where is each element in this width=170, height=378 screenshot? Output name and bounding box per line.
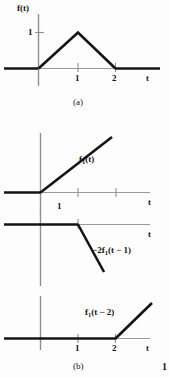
panel-b1-x-axis-label: t <box>148 198 151 207</box>
panel-b3-curve-ramp <box>116 303 153 339</box>
panel-b3-xtick-label-1: 1 <box>75 344 80 353</box>
panel-a-x-axis-label: t <box>146 74 149 83</box>
page-number: 1 <box>162 362 167 372</box>
figure-graphics <box>0 0 170 378</box>
panel-a-graphics <box>4 14 160 86</box>
panel-b1-graphics <box>4 133 150 214</box>
panel-b1-xtick-label-1: 1 <box>57 202 62 211</box>
panel-b3-xtick-label-2: 2 <box>112 344 117 353</box>
panel-b3-x-axis-label: t <box>146 344 149 353</box>
figure-page: f(t) 1 1 2 t (a) f1(t) t 1 −2f1(t − 1) t… <box>0 0 170 378</box>
panel-a-xtick-label-2: 2 <box>112 74 117 83</box>
panel-b3-graphics <box>4 296 152 350</box>
panel-b1-curve-label-tail: (t) <box>85 154 94 164</box>
panel-b1-curve-ramp <box>41 137 113 193</box>
panel-b2-curve-label-tail: (t − 1) <box>108 245 131 255</box>
panel-b-caption: (b) <box>73 362 84 371</box>
panel-b2-x-axis-label: t <box>148 230 151 239</box>
panel-a-caption: (a) <box>73 98 83 107</box>
panel-a-xtick-label-1: 1 <box>75 74 80 83</box>
panel-b3-curve-label: f1(t − 2) <box>85 308 114 319</box>
panel-b2-curve-label: −2f1(t − 1) <box>92 246 131 257</box>
panel-b3-curve-label-tail: (t − 2) <box>91 307 114 317</box>
panel-a-ytick-label-1: 1 <box>28 28 33 37</box>
panel-b1-curve-label: f1(t) <box>79 155 94 166</box>
panel-a-curve-triangle <box>39 33 116 69</box>
panel-a-y-axis-label: f(t) <box>17 4 29 13</box>
panel-b2-curve-label-main: −2f <box>92 245 105 255</box>
